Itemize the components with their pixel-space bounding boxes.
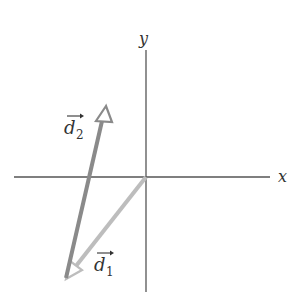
svg-text:d: d [94,254,106,275]
svg-text:d: d [64,117,76,138]
label-d2: d 2 [64,114,84,143]
x-axis-label: x [278,167,287,186]
arrowhead-d2-icon [96,106,112,122]
label-d1: d 1 [94,251,114,280]
svg-text:2: 2 [76,128,84,142]
vector-diagram: x y d 2 d 1 [0,0,296,300]
y-axis-label: y [138,29,149,48]
svg-text:1: 1 [106,265,114,279]
